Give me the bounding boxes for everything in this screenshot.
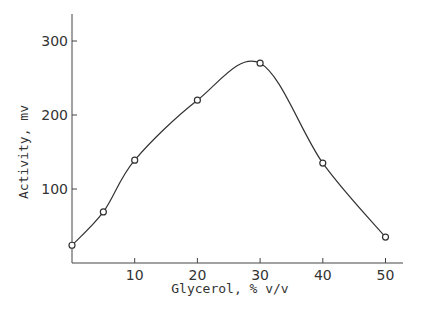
x-tick-label: 10 bbox=[126, 267, 144, 283]
ticks: 1020304050100200300 bbox=[41, 33, 394, 283]
x-axis-label: Glycerol, % v/v bbox=[171, 281, 289, 296]
activity-vs-glycerol-chart: 1020304050100200300 Glycerol, % v/v Acti… bbox=[0, 0, 421, 312]
data-point-marker bbox=[194, 97, 200, 103]
data-point-marker bbox=[383, 234, 389, 240]
data-point-marker bbox=[100, 209, 106, 215]
data-point-marker bbox=[320, 160, 326, 166]
axes bbox=[72, 14, 403, 263]
x-tick-label: 50 bbox=[377, 267, 395, 283]
y-tick-label: 100 bbox=[41, 181, 68, 197]
data-point-marker bbox=[257, 60, 263, 66]
data-point-marker bbox=[132, 157, 138, 163]
data-curve bbox=[72, 61, 386, 245]
y-axis-label: Activity, mv bbox=[16, 105, 31, 199]
data-markers bbox=[69, 60, 389, 248]
y-tick-label: 300 bbox=[41, 33, 68, 49]
x-tick-label: 40 bbox=[314, 267, 332, 283]
data-point-marker bbox=[69, 242, 75, 248]
y-tick-label: 200 bbox=[41, 107, 68, 123]
